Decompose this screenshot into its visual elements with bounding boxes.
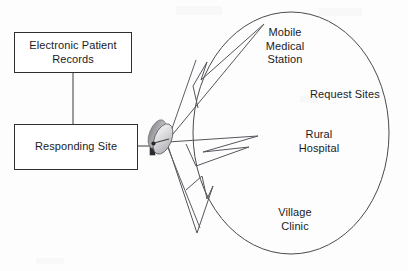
signal-beam-rural-hospital: [168, 136, 258, 166]
satellite-dish-icon: [144, 117, 176, 157]
label-request-sites: Request Sites: [310, 88, 396, 102]
node-responding-site[interactable]: Responding Site: [14, 124, 138, 170]
label-village-clinic: Village Clinic: [265, 206, 325, 233]
dish-feed-horn: [151, 141, 155, 145]
node-electronic-patient-records[interactable]: Electronic Patient Records: [14, 32, 132, 73]
signal-beam-village-clinic: [168, 146, 213, 233]
label-rural-hospital: Rural Hospital: [290, 128, 348, 155]
label-mobile-medical-station: Mobile Medical Station: [252, 26, 318, 67]
node-responding-site-label: Responding Site: [31, 140, 121, 154]
node-electronic-patient-records-label: Electronic Patient Records: [25, 39, 120, 66]
signal-beam-mobile-medical-station: [168, 24, 264, 140]
diagram-canvas: Electronic Patient Records Responding Si…: [0, 0, 408, 271]
